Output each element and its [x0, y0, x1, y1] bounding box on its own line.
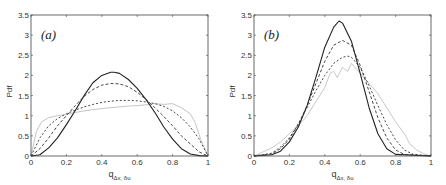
- series-line-dashed-1: [31, 84, 208, 157]
- x-tick-label: 0.6: [132, 158, 144, 167]
- y-tick-label: 1.5: [241, 92, 253, 101]
- x-tick-label: 0.4: [319, 158, 331, 167]
- chart-a-svg: 00.20.40.60.8100.511.522.533.5(a)PdfqΔx,…: [0, 0, 223, 185]
- series-line-dashed-2: [254, 56, 431, 156]
- y-tick-label: 2: [25, 71, 30, 80]
- y-tick-label: 0.5: [18, 132, 30, 141]
- x-tick-label: 0: [29, 158, 34, 167]
- chart-b-svg: 00.20.40.60.8100.511.522.533.5(b)PdfqΔx,…: [223, 0, 446, 185]
- y-tick-label: 3.5: [18, 11, 30, 20]
- y-tick-label: 0: [248, 152, 253, 161]
- series-line-data: [254, 63, 431, 156]
- series-line-solid: [31, 72, 208, 156]
- y-tick-label: 2.5: [18, 51, 30, 60]
- series-group: [31, 72, 208, 156]
- y-axis-label: Pdf: [5, 85, 14, 98]
- y-tick-label: 0: [25, 152, 30, 161]
- chart-panel-a: 00.20.40.60.8100.511.522.533.5(a)PdfqΔx,…: [0, 0, 223, 185]
- y-tick-label: 3: [248, 31, 253, 40]
- x-axis-label: qΔx, δu: [108, 169, 130, 181]
- series-line-dashed-2: [31, 100, 208, 156]
- x-tick-label: 0.8: [167, 158, 179, 167]
- x-tick-label: 1: [429, 158, 434, 167]
- y-tick-label: 3.5: [241, 11, 253, 20]
- series-line-solid: [254, 21, 431, 156]
- y-tick-label: 2: [248, 71, 253, 80]
- panel-label: (a): [41, 27, 56, 42]
- series-group: [254, 21, 431, 156]
- axes-frame: [31, 15, 208, 156]
- x-tick-label: 0.4: [96, 158, 108, 167]
- y-axis-label: Pdf: [228, 85, 237, 98]
- x-tick-label: 1: [206, 158, 211, 167]
- x-tick-label: 0: [252, 158, 257, 167]
- y-tick-label: 1: [25, 112, 30, 121]
- x-axis-label: qΔx, δu: [331, 169, 353, 181]
- axes-frame: [254, 15, 431, 156]
- y-tick-label: 2.5: [241, 51, 253, 60]
- y-tick-label: 0.5: [241, 132, 253, 141]
- x-tick-label: 0.8: [390, 158, 402, 167]
- y-tick-label: 1: [248, 112, 253, 121]
- series-line-dashed-1: [254, 40, 431, 156]
- y-tick-label: 3: [25, 31, 30, 40]
- x-tick-label: 0.2: [284, 158, 296, 167]
- x-tick-label: 0.2: [61, 158, 73, 167]
- panel-label: (b): [264, 27, 279, 42]
- y-tick-label: 1.5: [18, 92, 30, 101]
- chart-panel-b: 00.20.40.60.8100.511.522.533.5(b)PdfqΔx,…: [223, 0, 446, 185]
- x-tick-label: 0.6: [355, 158, 367, 167]
